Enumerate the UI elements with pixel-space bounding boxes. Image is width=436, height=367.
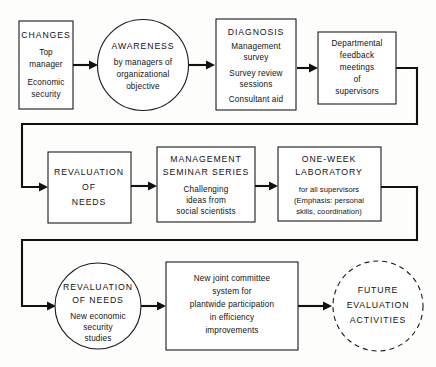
committee-line-1: New joint committee — [194, 274, 271, 283]
diagnosis-line-1: Management — [231, 42, 281, 51]
connector-revaluation1-to-seminar — [131, 182, 157, 191]
node-revaluation2[interactable]: REVALUATION OF NEEDS New economic securi… — [55, 263, 141, 349]
node-committee[interactable]: New joint committee system for plantwide… — [166, 262, 298, 350]
diagnosis-line-3: Survey review — [229, 69, 282, 78]
feedback-line-3: meetings — [340, 63, 374, 72]
future-line-2: EVALUATION — [347, 300, 410, 310]
node-feedback[interactable]: Departmental feedback meetings of superv… — [318, 32, 396, 104]
feedback-line-2: feedback — [340, 51, 375, 60]
connector-changes-to-awareness — [73, 61, 98, 70]
node-seminar[interactable]: MANAGEMENT SEMINAR SERIES Challenging id… — [157, 147, 255, 222]
committee-line-2: system for — [212, 287, 251, 296]
node-changes[interactable]: CHANGES Top manager Economic security — [19, 21, 73, 109]
changes-line-4: security — [31, 90, 61, 99]
node-awareness[interactable]: AWARENESS by managers of organizational … — [98, 20, 189, 111]
seminar-line-3: Challenging — [184, 185, 229, 194]
diagnosis-line-4: sessions — [239, 80, 272, 89]
changes-line-1: Top — [39, 48, 53, 57]
awareness-line-2: organizational — [116, 70, 169, 79]
node-laboratory[interactable]: ONE-WEEK LABORATORY for all supervisors … — [278, 147, 381, 221]
revaluation1-line-3: NEEDS — [72, 197, 106, 207]
revaluation2-line-5: studies — [85, 334, 112, 343]
committee-line-3: plantwide participation — [190, 300, 275, 309]
changes-heading: CHANGES — [21, 30, 70, 40]
seminar-line-5: social scientists — [176, 207, 235, 216]
awareness-heading: AWARENESS — [112, 41, 175, 51]
changes-line-2: manager — [29, 60, 62, 69]
laboratory-line-5: skills, coordination) — [296, 207, 362, 216]
seminar-line-2: SEMINAR SERIES — [163, 167, 249, 177]
laboratory-line-4: (Emphasis: personal — [294, 196, 364, 205]
revaluation2-line-1: REVALUATION — [63, 282, 133, 292]
node-revaluation1[interactable]: REVALUATION OF NEEDS — [48, 152, 131, 223]
seminar-line-1: MANAGEMENT — [170, 154, 241, 164]
revaluation2-line-3: New economic — [70, 312, 126, 321]
revaluation2-line-2: OF NEEDS — [72, 295, 124, 305]
connector-revaluation2-to-committee — [141, 302, 166, 311]
connector-committee-to-future — [298, 302, 332, 311]
changes-line-3: Economic — [27, 78, 64, 87]
connector-diagnosis-to-feedback — [297, 64, 318, 73]
connector-awareness-to-diagnosis — [189, 61, 215, 70]
laboratory-line-3: for all supervisors — [299, 185, 360, 194]
committee-line-5: improvements — [205, 326, 258, 335]
diagnosis-heading: DIAGNOSIS — [228, 27, 284, 37]
laboratory-line-1: ONE-WEEK — [302, 154, 357, 164]
awareness-line-1: by managers of — [114, 58, 173, 67]
flowchart-canvas: CHANGES Top manager Economic security AW… — [0, 0, 436, 367]
node-diagnosis[interactable]: DIAGNOSIS Management survey Survey revie… — [216, 19, 296, 110]
future-line-3: ACTIVITIES — [350, 315, 406, 325]
feedback-line-4: of — [353, 75, 361, 84]
awareness-line-3: objective — [126, 82, 160, 91]
seminar-line-4: ideas from — [186, 196, 226, 205]
node-future[interactable]: FUTURE EVALUATION ACTIVITIES — [333, 261, 423, 351]
diagnosis-line-5: Consultant aid — [229, 95, 284, 104]
laboratory-line-2: LABORATORY — [295, 167, 362, 177]
connector-seminar-to-laboratory — [255, 182, 278, 191]
flowchart-svg: CHANGES Top manager Economic security AW… — [0, 0, 436, 367]
revaluation1-line-1: REVALUATION — [54, 167, 124, 177]
feedback-line-5: supervisors — [335, 87, 379, 96]
future-line-1: FUTURE — [358, 285, 399, 295]
feedback-line-1: Departmental — [332, 39, 383, 48]
revaluation1-line-2: OF — [82, 182, 96, 192]
revaluation2-line-4: security — [83, 323, 113, 332]
diagnosis-line-2: survey — [243, 53, 269, 62]
committee-line-4: in efficiency — [210, 313, 255, 322]
